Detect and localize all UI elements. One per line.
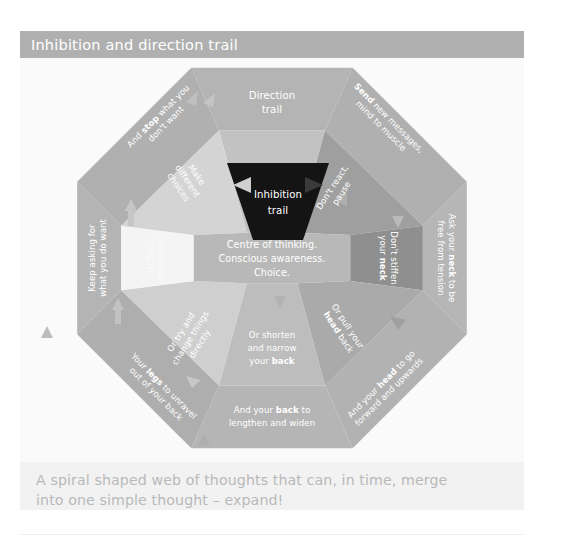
or-feel-line2: things out [156,235,166,279]
or-shorten-line2: and narrow [247,343,296,353]
inhibition-direction-diagram: Direction trail Inhibition trail Centre … [20,58,524,462]
bottom-divider [20,534,524,535]
or-feel-line1: Or feel [145,243,155,272]
diagram-svg: Direction trail Inhibition trail Centre … [20,58,524,462]
caption-line-2: into one simple thought – expand! [36,490,506,510]
keep-asking-line1: Keep asking for [87,224,97,292]
inner-label-or-shorten-and-narrow-your-back: Or shorten and narrow your back [247,330,296,366]
center-label-line2: Conscious awareness. [219,253,326,264]
center-label-line3: Choice. [254,267,290,278]
caption: A spiral shaped web of thoughts that can… [36,470,506,510]
dont-stiffen-line1: Don't stiffen [389,231,399,284]
outer-label-ask-your-neck: Ask your neck to be free from tension [436,214,457,303]
back-lengthen-line1: And your back to [234,405,311,415]
direction-trail-label-line1: Direction [249,90,295,101]
page-title-bar: Inhibition and direction trail [20,31,524,58]
inhibition-trail-label-line2: trail [268,205,288,216]
ask-neck-line1: Ask your neck to be [447,214,457,303]
inhibition-trail-label-line1: Inhibition [254,189,302,200]
page-root: Inhibition and direction trail [0,0,574,548]
back-lengthen-line2: lengthen and widen [229,418,315,428]
direction-trail-label-line2: trail [262,104,282,115]
center-label-line1: Centre of thinking. [227,239,317,250]
arrow-inner-bottom-left-shaft-icon [115,310,121,324]
ask-neck-line2: free from tension [436,221,446,296]
keep-asking-line2: what you do want [98,219,108,297]
arrow-outer-left-up-icon [41,326,53,338]
or-shorten-line3: your back [249,356,295,366]
outer-segment-bottom[interactable] [191,386,352,449]
caption-line-1: A spiral shaped web of thoughts that can… [36,470,506,490]
inner-label-dont-stiffen-your-neck: Don't stiffen your neck [378,231,399,284]
or-shorten-line1: Or shorten [249,330,295,340]
dont-stiffen-line2: your neck [378,235,388,281]
outer-label-keep-asking: Keep asking for what you do want [87,219,108,297]
page-title: Inhibition and direction trail [20,37,238,53]
arrow-inner-left-shaft-icon [128,211,134,226]
